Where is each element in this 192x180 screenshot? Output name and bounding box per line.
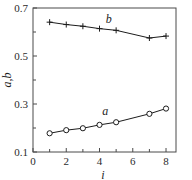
data-point-a	[80, 126, 85, 131]
y-tick-label: 0.5	[14, 50, 28, 62]
y-tick-label: 0.3	[14, 98, 28, 110]
data-point-a	[147, 111, 152, 116]
y-tick-label: 0.1	[14, 146, 28, 158]
y-tick-label: 0.7	[14, 2, 28, 14]
plot-area: 0.10.30.50.702468ia,bba	[0, 0, 192, 180]
data-point-a	[114, 120, 119, 125]
x-axis-title: i	[101, 168, 104, 180]
data-point-a	[64, 128, 69, 133]
x-tick-label: 6	[130, 155, 136, 167]
series-label-a: a	[102, 104, 108, 118]
chart-figure: 0.10.30.50.702468ia,bba	[0, 0, 192, 180]
x-tick-label: 8	[163, 155, 169, 167]
x-tick-label: 4	[97, 155, 103, 167]
x-tick-label: 2	[64, 155, 70, 167]
data-point-a	[163, 106, 168, 111]
y-axis-title: a,b	[0, 73, 14, 88]
x-tick-label: 0	[30, 155, 36, 167]
series-label-b: b	[106, 12, 112, 26]
data-point-a	[97, 122, 102, 127]
data-point-a	[47, 131, 52, 136]
